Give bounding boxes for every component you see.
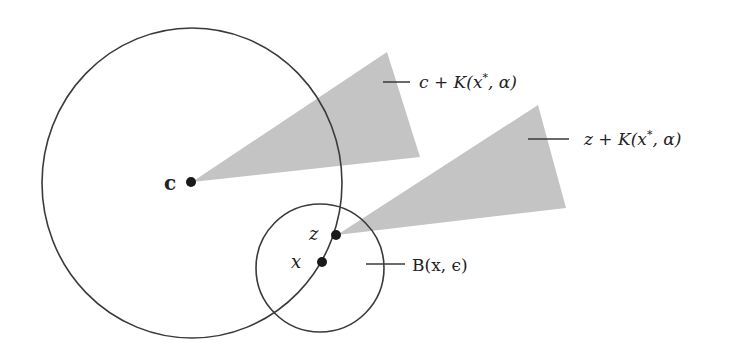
label-c-cone-suffix: , α) xyxy=(488,72,517,92)
label-z-cone: z + K(x*, α) xyxy=(583,128,681,149)
ball-circle xyxy=(256,204,384,332)
cone-c xyxy=(192,52,420,182)
diagram-figure: c z x c + K(x*, α) z + K(x*, α) B(x, ϵ) xyxy=(0,0,741,356)
label-z-cone-suffix: , α) xyxy=(652,129,681,149)
label-c-cone-prefix: c + K(x xyxy=(419,72,483,92)
label-c-cone: c + K(x*, α) xyxy=(419,71,517,92)
point-x xyxy=(317,257,327,267)
label-x: x xyxy=(291,251,301,272)
label-c: c xyxy=(164,171,176,195)
label-z: z xyxy=(308,223,319,244)
label-ball: B(x, ϵ) xyxy=(412,255,468,275)
label-z-cone-prefix: z + K(x xyxy=(583,129,647,149)
point-z xyxy=(331,230,341,240)
point-c xyxy=(186,177,196,187)
